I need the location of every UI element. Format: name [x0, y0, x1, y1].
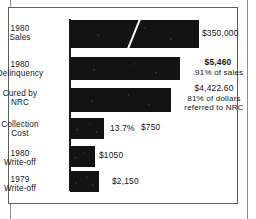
value-annotation-line1: .91% of sales — [184, 68, 252, 77]
bar-1980-write-off — [70, 146, 95, 167]
category-label-1980-delinquency: 1980 Delinquency — [0, 60, 63, 79]
category-label-line2: Cost — [0, 129, 63, 138]
axis-break-slash-icon — [127, 18, 142, 50]
category-label-cured-by-nrc: Cured by NRC — [0, 89, 63, 108]
value-label-1979-write-off: $2,150 — [112, 177, 139, 187]
percent-label-collection-cost: 13.7% — [110, 123, 135, 133]
value-text: $1050 — [99, 150, 123, 160]
value-text: $4,422.60 — [194, 83, 233, 93]
category-label-collection-cost: Collection Cost — [0, 120, 63, 139]
value-annotation-line2: referred to NRC — [176, 103, 252, 112]
category-label-line2: Delinquency — [0, 69, 63, 78]
value-label-collection-cost: $750 — [141, 123, 160, 133]
bar-1980-sales — [70, 20, 199, 48]
category-label-line2: NRC — [0, 98, 63, 107]
value-label-1980-sales: $350,000 — [202, 29, 239, 39]
category-label-line1: 1980 — [11, 60, 30, 69]
chart-screenshot: 1980 Sales $350,000 1980 Delinquency — [0, 0, 256, 219]
value-label-1980-write-off: $1050 — [99, 151, 123, 161]
value-label-1980-delinquency: $5,460 .91% of sales — [184, 58, 252, 77]
figure-frame: 1980 Sales $350,000 1980 Delinquency — [8, 7, 238, 204]
category-label-line1: 1980 — [11, 149, 30, 158]
value-text: $2,150 — [112, 176, 139, 186]
category-label-line1: 1980 — [11, 24, 30, 33]
category-label-line2: Sales — [0, 33, 63, 42]
bar-1979-write-off — [70, 171, 99, 192]
bar-chart-plot-area: 1980 Sales $350,000 1980 Delinquency — [9, 8, 237, 203]
category-label-line1: 1979 — [11, 175, 30, 184]
value-text: $5,460 — [205, 57, 232, 67]
bar-collection-cost — [70, 118, 104, 139]
value-text: $750 — [141, 122, 160, 132]
category-label-line2: Write-off — [0, 158, 63, 167]
category-label-1980-write-off: 1980 Write-off — [0, 149, 63, 168]
value-text: $350,000 — [202, 28, 239, 38]
value-annotation-line1: 81% of dollars — [176, 94, 252, 103]
category-label-line1: Cured by — [3, 89, 37, 98]
bar-cured-by-nrc — [70, 88, 171, 112]
category-label-1979-write-off: 1979 Write-off — [0, 175, 63, 194]
bar-1980-delinquency — [70, 57, 180, 80]
value-label-cured-by-nrc: $4,422.60 81% of dollars referred to NRC — [176, 84, 252, 112]
category-label-line2: Write-off — [0, 184, 63, 193]
category-label-1980-sales: 1980 Sales — [0, 24, 63, 43]
category-label-line1: Collection — [1, 120, 38, 129]
